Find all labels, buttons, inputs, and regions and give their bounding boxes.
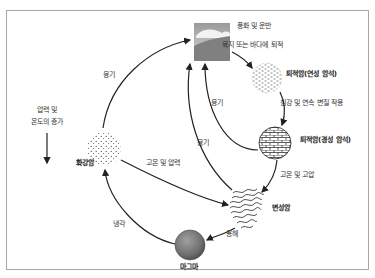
side-note-line2: 온도의 증가	[20, 119, 74, 126]
label-weathering-transport: 풍화 및 운반	[237, 23, 271, 30]
uplift-arrow-hard	[205, 64, 258, 150]
side-note-line1: 압력 및	[26, 107, 68, 114]
label-uplift-granite: 융기	[103, 72, 115, 79]
label-deposition: 육지 또는 바다에 퇴적	[222, 42, 283, 49]
label-high-temp-pressure: 고온 및 고압	[280, 172, 314, 179]
uplift-arrow-granite	[103, 40, 190, 128]
label-granite: 화강암	[76, 160, 94, 167]
label-heat-pressure: 고온 및 압력	[146, 160, 180, 167]
label-sedimentary-hard: 퇴적암(경성 암석)	[300, 137, 351, 144]
folded-rock-icon	[230, 189, 264, 228]
label-magma: 마그마	[180, 264, 198, 271]
brick-rock-icon	[259, 127, 291, 159]
deposition-arrow	[232, 52, 252, 68]
label-uplift-hard: 융기	[197, 140, 209, 147]
high-temp-pressure-arrow	[262, 160, 277, 192]
uplift-arrow-metamorphic	[188, 64, 232, 190]
label-metamorphic: 변성암	[272, 205, 290, 212]
subsidence-arrow	[280, 92, 284, 125]
loose-sediment-icon	[252, 63, 282, 93]
label-subsidence: 침강 및 연속 변질 작용	[280, 100, 343, 107]
label-sedimentary-soft: 퇴적암(연성 암석)	[286, 71, 337, 78]
label-uplift-soft: 융기	[211, 100, 223, 107]
label-cooling: 냉각	[113, 221, 125, 228]
magma-sphere-icon	[175, 230, 205, 260]
label-melting: 용해	[226, 231, 238, 238]
